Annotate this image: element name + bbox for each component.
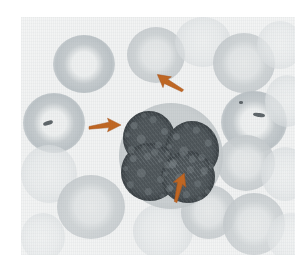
- annotation-arrow-left: [89, 117, 129, 133]
- erythrocyte: [257, 21, 295, 69]
- erythrocyte: [23, 93, 85, 153]
- erythrocyte-inclusion: [239, 101, 243, 104]
- photomicrograph-plate: [21, 17, 295, 255]
- erythrocyte: [57, 175, 125, 239]
- erythrocyte: [261, 147, 295, 201]
- erythrocyte: [53, 35, 115, 93]
- figure-root: Light photomicrograph of a peripheral bl…: [0, 0, 305, 269]
- erythrocyte: [21, 213, 65, 255]
